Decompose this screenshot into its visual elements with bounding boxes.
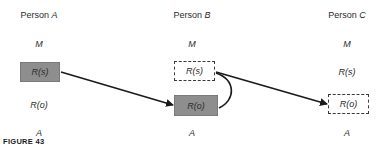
person-c-rs: R(s) — [339, 67, 356, 77]
person-c-ro-box: R(o) — [328, 94, 369, 114]
person-b-ro-box: R(o) — [174, 95, 218, 116]
arrow-a-rs-to-b-ro — [61, 72, 173, 105]
person-c-var: C — [359, 10, 366, 20]
person-b-var: B — [205, 10, 211, 20]
person-c-a: A — [344, 128, 350, 138]
person-a-m: M — [35, 39, 43, 49]
person-b-rs-box: R(s) — [174, 61, 215, 81]
person-c-m: M — [343, 39, 351, 49]
person-a-rs-box: R(s) — [20, 62, 60, 82]
person-b-title: Person B — [173, 10, 210, 20]
person-c-prefix: Person — [328, 10, 359, 20]
person-a-prefix: Person — [20, 10, 51, 20]
person-a-ro: R(o) — [30, 100, 48, 110]
arrow-b-rs-to-b-ro-curved — [216, 73, 231, 108]
person-b-prefix: Person — [173, 10, 204, 20]
person-a-title: Person A — [20, 10, 57, 20]
person-b-m: M — [188, 39, 196, 49]
figure-label: FIGURE 43 — [3, 137, 44, 146]
arrow-b-rs-to-c-ro — [216, 72, 327, 104]
person-b-a: A — [189, 128, 195, 138]
person-a-var: A — [52, 10, 58, 20]
person-c-title: Person C — [328, 10, 366, 20]
